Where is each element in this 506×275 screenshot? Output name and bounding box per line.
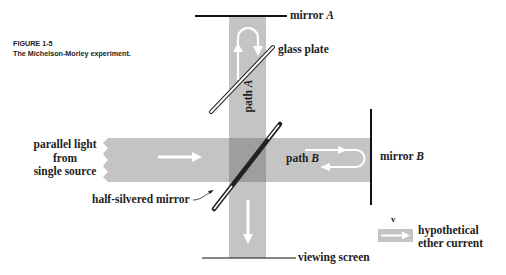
figure-caption: FIGURE 1-5 The Michelson-Morley experime… — [13, 39, 131, 58]
mirror-a-letter: A — [326, 9, 334, 21]
path-a-label: path A — [242, 80, 255, 113]
ether-label-line1: hypothetical — [418, 224, 483, 237]
velocity-symbol: v — [391, 213, 396, 226]
beam-overlap-region — [229, 138, 266, 182]
figure-title: The Michelson-Morley experiment. — [13, 49, 131, 59]
half-silvered-mirror-label: half-silvered mirror — [92, 193, 190, 206]
mirror-b-label: mirror B — [380, 150, 424, 163]
michelson-morley-diagram: FIGURE 1-5 The Michelson-Morley experime… — [0, 0, 506, 275]
source-label-line1: parallel light — [20, 138, 110, 152]
ether-label-line2: ether current — [418, 237, 483, 250]
path-b-label-text: path — [286, 152, 311, 164]
source-label-line3: single source — [20, 165, 110, 179]
mirror-b-label-text: mirror — [380, 150, 416, 162]
glass-plate-label: glass plate — [278, 43, 329, 56]
path-b-letter: B — [311, 152, 319, 164]
ether-current-label: hypothetical ether current — [418, 224, 483, 250]
path-a-label-text: path — [242, 87, 254, 112]
path-b-label: path B — [286, 152, 319, 165]
viewing-screen-label: viewing screen — [298, 251, 370, 264]
mirror-a-label: mirror A — [290, 9, 334, 22]
source-label-line2: from — [20, 152, 110, 166]
figure-number: FIGURE 1-5 — [13, 39, 131, 49]
mirror-a-label-text: mirror — [290, 9, 326, 21]
light-source-label: parallel light from single source — [20, 138, 110, 179]
path-a-letter: A — [242, 80, 254, 88]
mirror-b-letter: B — [416, 150, 424, 162]
